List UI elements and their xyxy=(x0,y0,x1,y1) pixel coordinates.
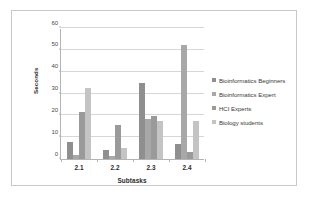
bar-2-1-series-4 xyxy=(85,88,90,159)
bar-2-4-series-4 xyxy=(193,121,198,159)
bar-2-1-series-2 xyxy=(73,155,78,159)
bar-2-2-series-1 xyxy=(103,150,108,159)
legend-swatch-icon xyxy=(212,92,216,96)
y-tick-label: 20 xyxy=(52,107,58,113)
y-tick-mark xyxy=(59,114,61,115)
legend-item-3[interactable]: HCI Experts xyxy=(212,101,304,115)
legend-item-4[interactable]: Biology students xyxy=(212,115,304,129)
legend-label: Bioinformatics Expert xyxy=(219,91,276,98)
chart-legend: Bioinformatics BeginnersBioinformatics E… xyxy=(212,73,304,129)
legend-swatch-icon xyxy=(212,120,216,124)
y-tick-label: 40 xyxy=(52,63,58,69)
bar-2-3-series-3 xyxy=(151,116,156,159)
x-axis-title: Subtasks xyxy=(60,177,204,184)
y-tick-mark xyxy=(59,27,61,28)
x-tick-mark xyxy=(133,159,134,162)
bar-2-2-series-2 xyxy=(109,156,114,159)
bar-2-2-series-3 xyxy=(115,125,120,159)
bar-group-2-2 xyxy=(103,29,126,159)
legend-item-2[interactable]: Bioinformatics Expert xyxy=(212,87,304,101)
x-tick-mark xyxy=(205,159,206,162)
bar-2-4-series-2 xyxy=(181,45,186,159)
plot-area: 0102030405060 2.12.22.32.4 xyxy=(60,29,204,160)
bar-2-4-series-3 xyxy=(187,152,192,159)
x-tick-label: 2.1 xyxy=(75,164,84,171)
x-tick-mark xyxy=(169,159,170,162)
x-tick-mark xyxy=(97,159,98,162)
bar-2-2-series-4 xyxy=(121,148,126,159)
x-tick-mark xyxy=(61,159,62,162)
y-tick-label: 60 xyxy=(52,20,58,26)
bar-group-2-4 xyxy=(175,29,198,159)
y-tick-mark xyxy=(59,70,61,71)
legend-label: HCI Experts xyxy=(219,105,251,112)
legend-item-1[interactable]: Bioinformatics Beginners xyxy=(212,73,304,87)
gridline xyxy=(61,27,204,28)
bar-2-3-series-1 xyxy=(139,83,144,159)
chart-frame: Seconds 0102030405060 2.12.22.32.4 Subta… xyxy=(11,10,297,186)
legend-label: Biology students xyxy=(219,119,263,126)
y-axis-title: Seconds xyxy=(32,68,39,95)
y-tick-mark xyxy=(59,48,61,49)
bar-group-2-1 xyxy=(67,29,90,159)
bar-2-1-series-3 xyxy=(79,112,84,159)
x-tick-label: 2.3 xyxy=(147,164,156,171)
bar-2-3-series-2 xyxy=(145,119,150,159)
x-tick-label: 2.2 xyxy=(111,164,120,171)
y-tick-label: 0 xyxy=(55,151,58,157)
x-tick-label: 2.4 xyxy=(183,164,192,171)
legend-swatch-icon xyxy=(212,106,216,110)
y-tick-label: 10 xyxy=(52,129,58,135)
legend-swatch-icon xyxy=(212,78,216,82)
y-tick-label: 30 xyxy=(52,85,58,91)
legend-label: Bioinformatics Beginners xyxy=(219,77,285,84)
y-tick-mark xyxy=(59,136,61,137)
y-tick-label: 50 xyxy=(52,41,58,47)
bar-2-1-series-1 xyxy=(67,142,72,159)
y-tick-mark xyxy=(59,92,61,93)
bar-2-4-series-1 xyxy=(175,144,180,159)
bar-group-2-3 xyxy=(139,29,162,159)
bar-2-3-series-4 xyxy=(157,121,162,159)
